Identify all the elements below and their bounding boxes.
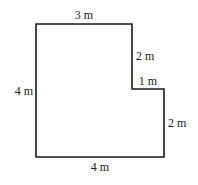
shape-outline [36, 24, 164, 157]
label-notch-horizontal: 1 m [139, 74, 158, 88]
floor-plan-diagram: 3 m 2 m 1 m 4 m 2 m 4 m [0, 0, 198, 185]
label-top: 3 m [75, 8, 94, 22]
label-left: 4 m [15, 84, 34, 98]
label-right: 2 m [168, 116, 187, 130]
label-notch-vertical: 2 m [136, 49, 155, 63]
label-bottom: 4 m [91, 160, 110, 174]
